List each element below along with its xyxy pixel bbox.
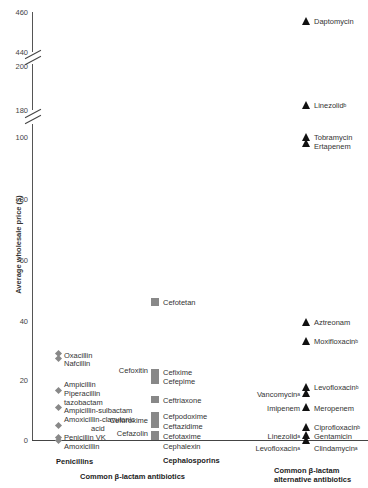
label-linezolid-a-text: Linezolid	[268, 432, 298, 441]
y-tick-180: 180	[4, 106, 28, 115]
diamond-marker	[55, 387, 62, 394]
label-piperacillin: Piperacillin	[64, 389, 100, 398]
square-marker	[151, 369, 159, 384]
label-ceftazidime: Ceftazidime	[163, 422, 203, 431]
square-marker	[151, 298, 159, 306]
label-amoxicillin: Amoxicillin	[64, 442, 99, 451]
label-levofloxacin-b: Levofloxacinb	[314, 383, 358, 392]
label-cefoxitin: Cefoxitin	[100, 366, 148, 375]
triangle-marker	[302, 101, 310, 109]
label-ciprofloxacin-text: Ciprofloxacin	[314, 423, 357, 432]
y-tick-40: 40	[4, 317, 28, 326]
footnote-a: a	[297, 391, 300, 397]
label-ciprofloxacin: Ciprofloxacinb	[314, 423, 360, 432]
label-meropenem: Meropenem	[314, 404, 354, 413]
label-vancomycin-text: Vancomycin	[257, 390, 297, 399]
label-cefazolin: Cefazolin	[100, 429, 148, 438]
footnote-a: a	[355, 445, 358, 451]
label-moxifloxacin-text: Moxifloxacin	[314, 337, 355, 346]
label-cefotetan: Cefotetan	[163, 298, 196, 307]
label-cefepime: Cefepime	[163, 377, 195, 386]
label-cefotaxime: Cefotaxime	[163, 432, 201, 441]
diamond-marker	[55, 355, 62, 362]
y-axis-segment-top	[32, 12, 33, 52]
footnote-b: b	[356, 384, 359, 390]
label-ertapenem: Ertapenem	[314, 142, 351, 151]
footnote-b: b	[355, 338, 358, 344]
label-daptomycin: Daptomycin	[314, 17, 354, 26]
square-marker	[151, 412, 159, 428]
triangle-marker	[302, 403, 310, 411]
label-tobramycin: Tobramycin	[314, 133, 352, 142]
label-levofloxacin-b-text: Levofloxacin	[314, 383, 356, 392]
diamond-marker	[55, 404, 62, 411]
label-linezolid-b-text: Linezolid	[314, 101, 344, 110]
y-tick-100: 100	[4, 133, 28, 142]
label-imipenem: Imipenem	[240, 404, 300, 413]
label-levofloxacin-a-text: Levofloxacin	[256, 444, 298, 453]
footnote-a: a	[297, 433, 300, 439]
category-penicillins: Penicillins	[56, 457, 93, 466]
label-cefixime: Cefixime	[163, 368, 192, 377]
footnote-a: a	[297, 445, 300, 451]
label-levofloxacin-a: Levofloxacina	[236, 444, 300, 453]
label-cefpodoxime: Cefpodoxime	[163, 412, 207, 421]
triangle-marker	[302, 139, 310, 147]
label-vancomycin: Vancomycina	[240, 390, 300, 399]
category-alternatives-line2: alternative antibiotics	[274, 475, 351, 484]
label-linezolid-b: Linezolidb	[314, 101, 346, 110]
triangle-marker	[302, 436, 310, 444]
label-ampicillin-sulbactam: Ampicillin-sulbactam	[64, 406, 132, 415]
diamond-marker	[55, 422, 62, 429]
triangle-marker	[302, 17, 310, 25]
y-axis-segment-mid	[32, 64, 33, 110]
label-cefuroxime: Cefuroxime	[95, 416, 148, 425]
group-label-beta-lactam: Common β-lactam antibiotics	[80, 472, 185, 481]
triangle-marker	[302, 318, 310, 326]
triangle-marker	[302, 389, 310, 397]
label-ampicillin: Ampicillin	[64, 380, 96, 389]
label-ceftriaxone: Ceftriaxone	[163, 396, 201, 405]
square-marker	[151, 431, 159, 440]
y-tick-20: 20	[4, 376, 28, 385]
square-marker	[151, 396, 159, 403]
label-linezolid-a: Linezolida	[240, 432, 300, 441]
label-aztreonam: Aztreonam	[314, 318, 350, 327]
category-alternatives-line1: Common β-lactam	[274, 466, 339, 475]
triangle-marker	[302, 423, 310, 431]
label-clindamycin: Clindamycina	[314, 444, 358, 453]
y-tick-0: 0	[4, 436, 28, 445]
footnote-b: b	[344, 102, 347, 108]
label-moxifloxacin: Moxifloxacinb	[314, 337, 358, 346]
label-gentamicin: Gentamicin	[314, 432, 352, 441]
footnote-b: b	[357, 424, 360, 430]
y-tick-440: 440	[4, 48, 28, 57]
triangle-marker	[302, 337, 310, 345]
y-tick-460: 460	[4, 8, 28, 17]
label-clindamycin-text: Clindamycin	[314, 444, 355, 453]
label-cephalexin: Cephalexin	[163, 442, 201, 451]
category-cephalosporins: Cephalosporins	[163, 456, 220, 465]
y-axis-segment-main	[32, 124, 33, 441]
y-axis-label: Average wholesale price ($)	[14, 185, 23, 305]
label-nafcillin: Nafcillin	[64, 359, 90, 368]
